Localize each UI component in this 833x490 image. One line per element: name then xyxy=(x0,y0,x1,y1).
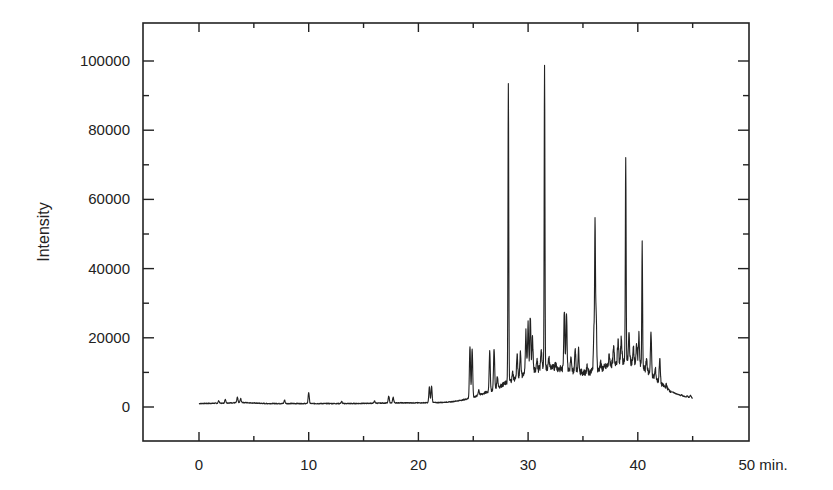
y-tick-label: 40000 xyxy=(88,260,130,277)
x-tick-label: 20 xyxy=(410,456,427,473)
y-tick-label: 0 xyxy=(122,398,130,415)
x-tick-label: 0 xyxy=(195,456,203,473)
y-axis-label: Intensity xyxy=(35,202,52,262)
signal-line xyxy=(199,65,692,404)
x-tick-label: 50 min. xyxy=(739,456,788,473)
y-tick-label: 100000 xyxy=(80,52,130,69)
chromatogram-chart: 01020304050 min. 02000040000600008000010… xyxy=(0,0,833,490)
chromatogram-trace xyxy=(199,65,692,404)
y-axis: 020000400006000080000100000 xyxy=(80,52,749,415)
x-tick-label: 10 xyxy=(300,456,317,473)
x-axis: 01020304050 min. xyxy=(195,23,788,473)
x-tick-label: 30 xyxy=(520,456,537,473)
x-tick-label: 40 xyxy=(629,456,646,473)
y-tick-label: 60000 xyxy=(88,190,130,207)
y-tick-label: 80000 xyxy=(88,121,130,138)
y-tick-label: 20000 xyxy=(88,329,130,346)
